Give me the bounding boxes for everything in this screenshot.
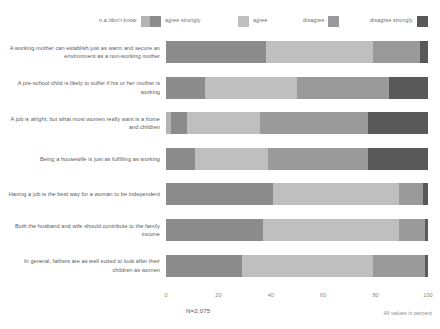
sample-size-note: N=2,075 [186,307,210,314]
bar-segment-disagree [297,77,389,99]
legend-label-na: n.a./don't know [99,18,137,23]
category-label: In general, fathers are as well suited t… [5,257,160,274]
axis-tick-20: 20 [215,292,221,298]
bar-segment-disagree-strongly [425,219,428,241]
bar-row [166,255,428,277]
legend-item-agree: agree [238,14,267,28]
axis-tick-60: 60 [320,292,326,298]
bar-segment-agree-strongly [166,255,242,277]
legend-swatch-agree-strongly [150,16,161,27]
bar-row [166,183,428,205]
bar-segment-agree [205,77,297,99]
axis-tick-80: 80 [372,292,378,298]
stacked-bar-plot-area [166,40,428,290]
legend-swatch-disagree-strongly [417,16,428,27]
bar-segment-agree-strongly [166,41,266,63]
category-label: A job is alright, but what most women re… [5,115,160,132]
bar-segment-disagree-strongly [389,77,428,99]
bar-segment-agree-strongly [166,219,263,241]
bar-segment-disagree-strongly [368,148,428,170]
bar-segment-disagree-strongly [425,255,428,277]
axis-tick-40: 40 [268,292,274,298]
bar-segment-disagree [373,41,420,63]
bar-row [166,219,428,241]
legend-swatch-disagree [328,16,339,27]
value-axis: 020406080100 [166,292,428,304]
bar-segment-agree-strongly [166,77,205,99]
bar-segment-agree [263,219,399,241]
legend-label-agree: agree [253,18,267,23]
bar-segment-agree-strongly [166,148,195,170]
legend-label-disagree-strongly: disagree strongly [370,18,413,23]
bar-segment-agree [273,183,399,205]
legend-label-disagree: disagree [303,18,324,23]
bar-row [166,112,428,134]
bar-row [166,41,428,63]
bar-segment-disagree-strongly [420,41,428,63]
legend-swatch-agree [238,16,249,27]
category-label: Both the husband and wife should contrib… [5,222,160,239]
bar-segment-agree [242,255,373,277]
legend-item-agree-strongly: agree strongly [150,14,201,28]
category-axis-labels: A working mother can establish just as w… [0,40,160,290]
axis-tick-0: 0 [164,292,167,298]
bar-segment-disagree [399,219,425,241]
unit-note: All values in percent [383,310,432,316]
bar-segment-disagree [268,148,368,170]
bar-segment-disagree-strongly [423,183,428,205]
legend-item-na: n.a./don't know [99,14,152,28]
bar-segment-disagree [373,255,425,277]
category-label: A working mother can establish just as w… [5,44,160,61]
bar-segment-disagree [399,183,423,205]
bar-segment-agree-strongly [171,112,187,134]
bar-segment-disagree-strongly [368,112,428,134]
bar-segment-agree [266,41,373,63]
bar-row [166,77,428,99]
bar-segment-agree [187,112,260,134]
legend-item-disagree: disagree [303,14,339,28]
legend-label-agree-strongly: agree strongly [165,18,201,23]
bar-segment-agree [195,148,268,170]
bar-segment-agree-strongly [166,183,273,205]
legend-item-disagree-strongly: disagree strongly [370,14,428,28]
category-label: Being a housewife is just as fulfilling … [5,155,160,163]
category-label: Having a job is the best way for a woman… [5,190,160,198]
bar-segment-disagree [260,112,367,134]
axis-tick-100: 100 [423,292,432,298]
category-label: A pre-school child is likely to suffer i… [5,79,160,96]
chart-legend: n.a./don't know agree strongly agree dis… [0,14,440,30]
bar-row [166,148,428,170]
